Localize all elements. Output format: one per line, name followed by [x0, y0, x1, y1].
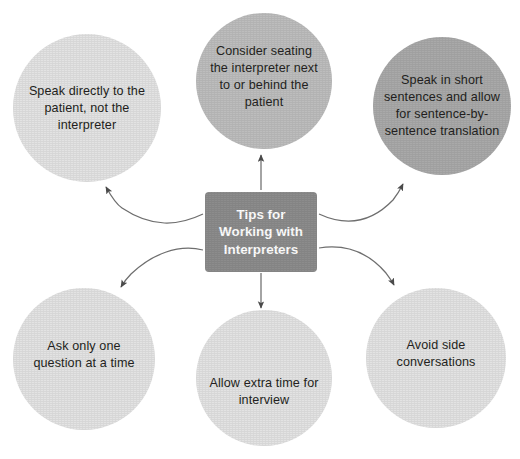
connector-center-to-one-question [121, 248, 203, 287]
node-short-sentences[interactable]: Speak in short sentences and allow for s… [373, 37, 511, 175]
connector-center-to-speak-directly [106, 187, 203, 223]
node-speak-directly[interactable]: Speak directly to the patient, not the i… [13, 34, 161, 182]
node-label: Speak directly to the patient, not the i… [21, 83, 152, 134]
node-avoid-side-conversations[interactable]: Avoid side conversations [366, 288, 506, 428]
center-node-label: Tips for Working with Interpreters [209, 206, 313, 257]
node-label: Speak in short sentences and allow for s… [381, 72, 504, 140]
node-one-question[interactable]: Ask only one question at a time [13, 288, 155, 430]
connector-center-to-avoid-side-conversations [319, 247, 394, 285]
center-node-tips[interactable]: Tips for Working with Interpreters [205, 192, 317, 272]
node-extra-time[interactable]: Allow extra time for interview [196, 310, 332, 446]
node-label: Avoid side conversations [374, 337, 498, 371]
node-label: Ask only one question at a time [21, 338, 147, 372]
diagram-canvas: Speak directly to the patient, not the i… [0, 0, 520, 459]
node-consider-seating[interactable]: Consider seating the interpreter next to… [196, 13, 332, 149]
node-label: Allow extra time for interview [204, 375, 325, 409]
node-label: Consider seating the interpreter next to… [204, 43, 325, 111]
connector-center-to-short-sentences [319, 184, 403, 221]
